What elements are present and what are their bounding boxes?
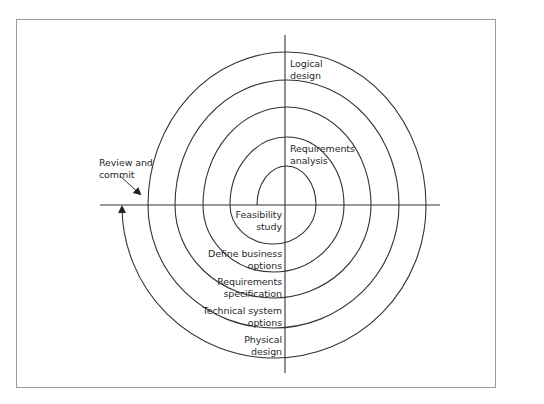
- label-define-business-options: Define business options: [208, 248, 282, 271]
- label-technical-system-options: Technical system options: [203, 305, 282, 328]
- label-review-and-commit: Review and commit: [99, 157, 153, 180]
- label-requirements-specification: Requirements specification: [217, 276, 282, 299]
- label-feasibility-study: Feasibility study: [236, 209, 282, 232]
- label-logical-design: Logical design: [290, 58, 323, 81]
- label-physical-design: Physical design: [244, 334, 282, 357]
- label-requirements-analysis: Requirements analysis: [290, 143, 355, 166]
